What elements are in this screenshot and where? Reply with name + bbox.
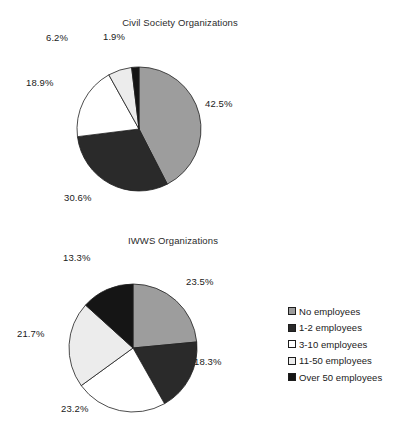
slice-label-iwws-11-50-employees: 21.7% — [17, 328, 44, 339]
legend-swatch-icon-1-2-employees — [288, 324, 296, 332]
pie-iwws-svg — [68, 283, 198, 413]
legend-item-no-employees[interactable]: No employees — [288, 303, 408, 320]
slice-label-iwws-1-2-employees: 18.3% — [194, 356, 221, 367]
legend-swatch-icon-over-50-employees — [288, 373, 296, 381]
pie-iwws — [68, 283, 198, 413]
legend-label-no-employees: No employees — [299, 306, 360, 317]
legend-label-1-2-employees: 1-2 employees — [299, 322, 362, 333]
legend-label-3-10-employees: 3-10 employees — [299, 339, 367, 350]
slice-label-civil-1-2-employees: 30.6% — [64, 192, 91, 203]
pie-civil-society — [76, 66, 202, 192]
chart-title-iwws: IWWS Organizations — [63, 235, 283, 246]
pie-chart-figure: Civil Society Organizations 42.5% 30.6% … — [0, 0, 409, 437]
chart-legend: No employees 1-2 employees 3-10 employee… — [288, 303, 408, 386]
slice-label-iwws-3-10-employees: 23.2% — [61, 403, 88, 414]
legend-label-11-50-employees: 11-50 employees — [299, 355, 372, 366]
slice-label-civil-no-employees: 42.5% — [205, 98, 232, 109]
slice-label-iwws-over-50-employees: 13.3% — [63, 252, 90, 263]
legend-item-1-2-employees[interactable]: 1-2 employees — [288, 320, 408, 337]
legend-item-over-50-employees[interactable]: Over 50 employees — [288, 369, 408, 386]
legend-swatch-icon-11-50-employees — [288, 357, 296, 365]
slice-label-civil-3-10-employees: 18.9% — [26, 77, 53, 88]
legend-item-3-10-employees[interactable]: 3-10 employees — [288, 336, 408, 353]
legend-swatch-icon-3-10-employees — [288, 340, 296, 348]
legend-swatch-icon-no-employees — [288, 307, 296, 315]
pie-slice[interactable] — [133, 284, 197, 348]
legend-item-11-50-employees[interactable]: 11-50 employees — [288, 353, 408, 370]
chart-panel-civil-society: Civil Society Organizations 42.5% 30.6% … — [0, 0, 409, 218]
slice-label-civil-11-50-employees: 6.2% — [46, 32, 68, 43]
slice-label-iwws-no-employees: 23.5% — [186, 276, 213, 287]
chart-title-civil-society: Civil Society Organizations — [70, 17, 290, 28]
pie-civil-society-svg — [76, 66, 202, 192]
legend-label-over-50-employees: Over 50 employees — [299, 372, 382, 383]
slice-label-civil-over-50-employees: 1.9% — [103, 31, 125, 42]
